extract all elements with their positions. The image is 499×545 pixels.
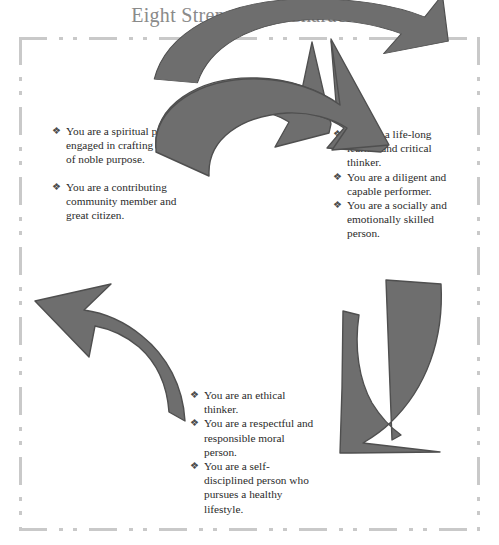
diamond-bullet-icon: ❖ bbox=[52, 124, 66, 138]
diamond-bullet-icon: ❖ bbox=[333, 170, 347, 184]
list-item: ❖ You are an ethical thinker. bbox=[190, 388, 314, 416]
poster-canvas: Eight Strengths of Character bbox=[0, 0, 499, 545]
frame-edge-top bbox=[19, 37, 480, 40]
right-strengths-list: ❖ You are a life-long learner and critic… bbox=[333, 127, 451, 241]
list-item: ❖ You are a respectful and responsible m… bbox=[190, 416, 314, 459]
list-item-text: You are a socially and emotionally skill… bbox=[347, 198, 451, 241]
list-item: ❖ You are a diligent and capable perform… bbox=[333, 170, 451, 198]
diamond-bullet-icon: ❖ bbox=[333, 198, 347, 212]
page-title: Eight Strengths of Character bbox=[0, 2, 499, 28]
diamond-bullet-icon: ❖ bbox=[52, 180, 66, 194]
diamond-bullet-icon: ❖ bbox=[190, 416, 204, 430]
list-item-text: You are a respectful and responsible mor… bbox=[204, 416, 314, 459]
bottom-strengths-list: ❖ You are an ethical thinker. ❖ You are … bbox=[190, 388, 314, 516]
list-item: ❖ You are a life-long learner and critic… bbox=[333, 127, 451, 170]
list-item: ❖ You are a spiritual person engaged in … bbox=[52, 124, 184, 167]
list-item-text: You are a self-disciplined person who pu… bbox=[204, 459, 314, 516]
list-item-text: You are a diligent and capable performer… bbox=[347, 170, 451, 198]
frame-edge-left bbox=[19, 37, 22, 531]
list-item-text: You are an ethical thinker. bbox=[204, 388, 314, 416]
list-item: ❖ You are a self-disciplined person who … bbox=[190, 459, 314, 516]
list-item: ❖ You are a contributing community membe… bbox=[52, 180, 184, 223]
left-strengths-list: ❖ You are a spiritual person engaged in … bbox=[52, 124, 184, 222]
diamond-bullet-icon: ❖ bbox=[190, 388, 204, 402]
diamond-bullet-icon: ❖ bbox=[190, 459, 204, 473]
frame-edge-right bbox=[477, 37, 480, 531]
frame-edge-bottom bbox=[19, 528, 480, 531]
list-item-text: You are a life-long learner and critical… bbox=[347, 127, 451, 170]
diamond-bullet-icon: ❖ bbox=[333, 127, 347, 141]
list-item-text: You are a contributing community member … bbox=[66, 180, 184, 223]
list-item-text: You are a spiritual person engaged in cr… bbox=[66, 124, 184, 167]
list-item: ❖ You are a socially and emotionally ski… bbox=[333, 198, 451, 241]
